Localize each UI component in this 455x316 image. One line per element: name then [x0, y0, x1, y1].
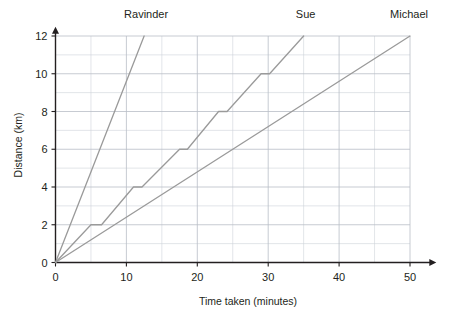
series-labels: RavinderSueMichael [124, 8, 428, 20]
x-tick-label: 30 [262, 271, 274, 283]
series-label-sue: Sue [296, 8, 316, 20]
y-tick-label: 6 [41, 143, 47, 155]
x-axis-title: Time taken (minutes) [199, 295, 297, 307]
y-tick-label: 4 [41, 181, 47, 193]
x-tick-label: 10 [120, 271, 132, 283]
y-axis-title: Distance (km) [12, 113, 24, 178]
x-tick-label: 20 [191, 271, 203, 283]
series-label-michael: Michael [390, 8, 428, 20]
y-tick-label: 12 [35, 30, 47, 42]
x-tick-label: 50 [404, 271, 416, 283]
distance-time-chart: 01020304050024681012 RavinderSueMichael … [0, 0, 455, 316]
y-tick-label: 8 [41, 106, 47, 118]
series-label-ravinder: Ravinder [124, 8, 168, 20]
x-tick-label: 40 [333, 271, 345, 283]
y-tick-label: 0 [41, 257, 47, 269]
y-tick-label: 10 [35, 68, 47, 80]
axes [56, 33, 431, 263]
x-tick-label: 0 [52, 271, 58, 283]
chart-canvas: 01020304050024681012 RavinderSueMichael … [0, 0, 455, 316]
y-tick-label: 2 [41, 219, 47, 231]
